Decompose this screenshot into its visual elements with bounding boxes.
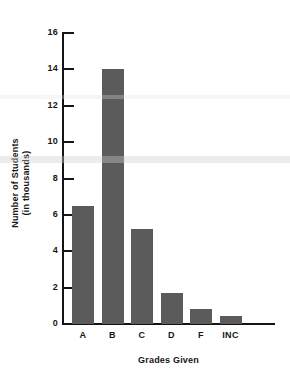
y-tick-label: 14 [0,64,58,73]
y-tick-label: 0 [0,319,58,328]
bar-d [161,293,183,324]
bar-f [190,309,212,324]
y-tick-label: 2 [0,283,58,292]
bar-b [102,69,124,324]
y-tick-label: 12 [0,101,58,110]
bar-inc [220,316,242,324]
bar-a [72,206,94,324]
y-tick-label: 16 [0,28,58,37]
x-axis-title: Grades Given [62,355,275,365]
bar-c [131,229,153,324]
bar-chart: 0 2 4 6 8 10 12 14 16 A B C D F INC Grad… [0,0,290,381]
y-axis-title-line1: Number of Students [10,138,20,228]
x-category-label: INC [211,331,251,340]
bars-container [62,33,275,324]
y-axis-title: Number of Students (in thousands) [10,118,32,248]
y-axis-title-line2: (in thousands) [21,118,32,248]
